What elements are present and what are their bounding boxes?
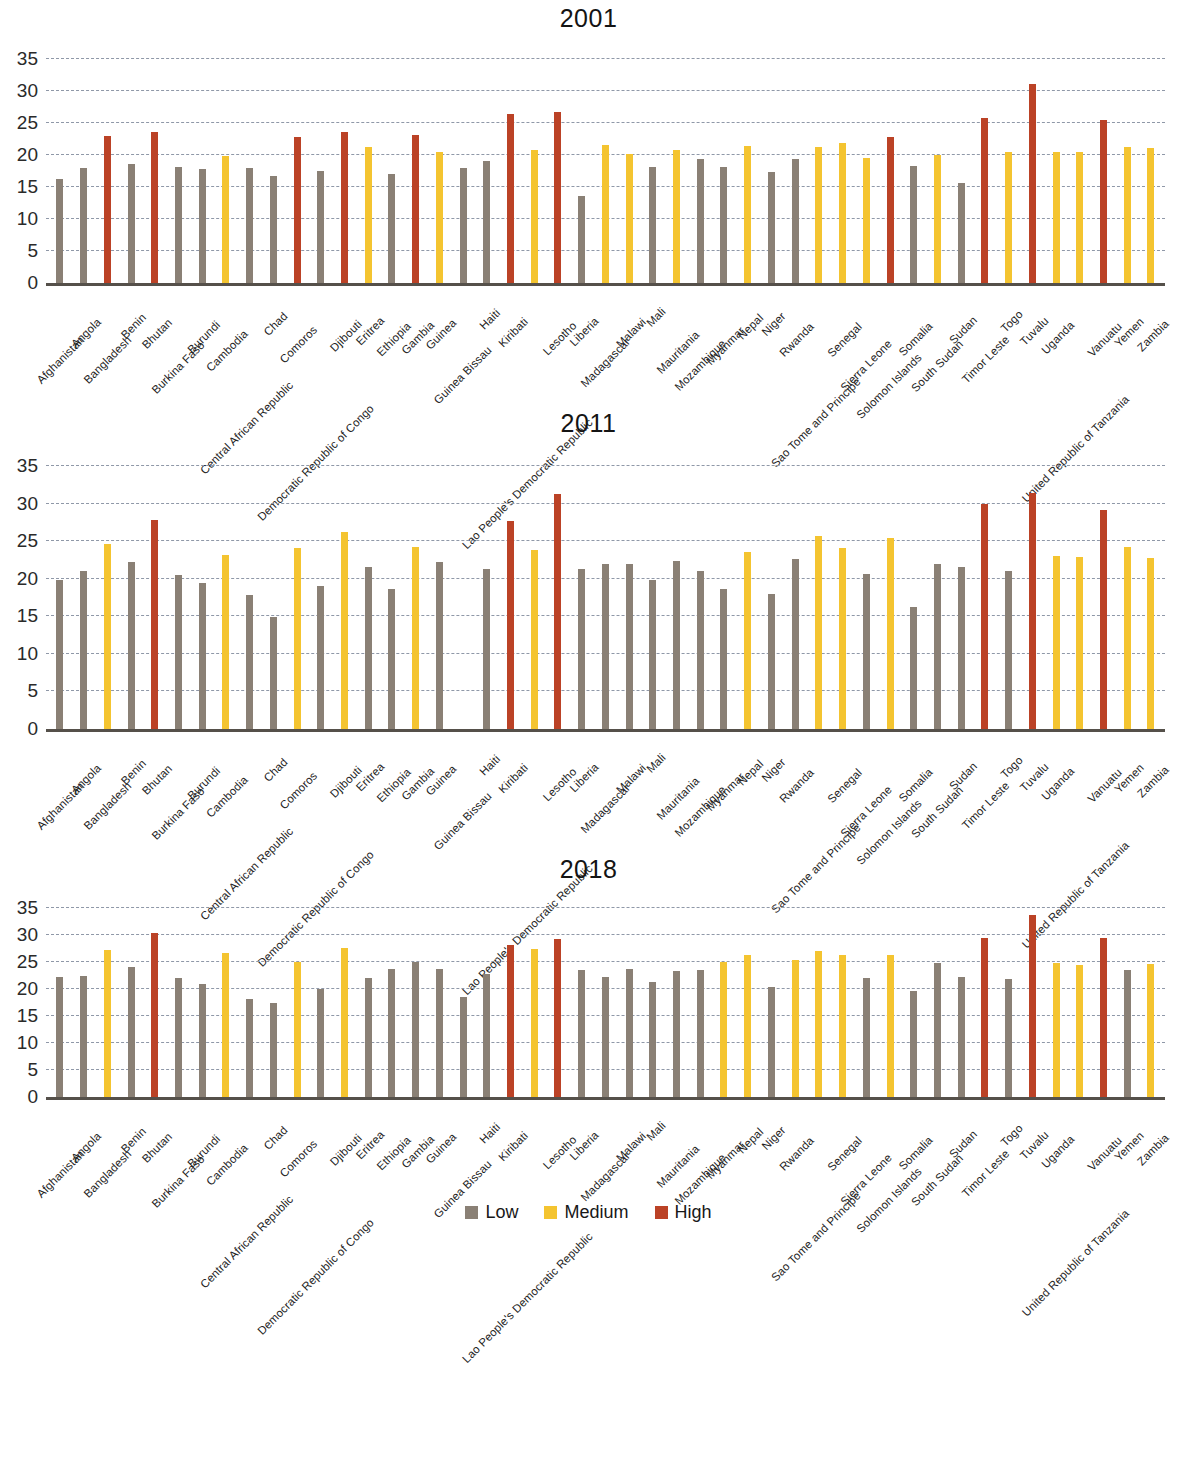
bar-slot (1068, 455, 1092, 729)
bar (887, 538, 894, 729)
bar-slot (499, 900, 523, 1097)
bar-slot (807, 455, 831, 729)
bar (151, 520, 158, 729)
bar-slot (831, 455, 855, 729)
bar (887, 955, 894, 1097)
x-axis-labels-2011: AfghanistanAngolaBangladeshBeninBhutanBu… (46, 732, 1165, 742)
bar (697, 159, 704, 283)
legend-swatch-high-icon (655, 1206, 668, 1219)
bar (910, 991, 917, 1097)
bar-slot (807, 49, 831, 283)
bar (863, 158, 870, 283)
x-axis-tick-label: Democratic Republic of Congo (255, 1216, 376, 1337)
bar-slot (285, 455, 309, 729)
x-label-slot: Uganda (1044, 1100, 1068, 1110)
bar (578, 569, 585, 729)
bar (863, 978, 870, 1097)
x-label-slot: Bhutan (143, 1100, 167, 1110)
bar (246, 168, 253, 283)
x-label-slot: Somalia (902, 732, 926, 742)
x-axis-tick-label: Angola (68, 316, 102, 350)
bar (341, 532, 348, 729)
x-label-slot: Burkina Faso (167, 1100, 191, 1110)
bar (294, 962, 301, 1097)
x-label-slot: Sierra Leone (854, 1100, 878, 1110)
x-label-slot: Yemen (1115, 732, 1139, 742)
bar (531, 949, 538, 1097)
bar-slot (380, 455, 404, 729)
bar-slot (878, 455, 902, 729)
x-label-slot: Niger (760, 732, 784, 742)
bar-slot (119, 49, 143, 283)
x-label-slot: Chad (261, 732, 285, 742)
x-axis-labels-2018: AfghanistanAngolaBangladeshBeninBhutanBu… (46, 1100, 1165, 1110)
x-axis-tick-label: Comoros (277, 769, 319, 811)
x-label-slot: Solomon Islands (878, 286, 902, 296)
bar-slot (475, 900, 499, 1097)
x-label-slot: Tuvalu (1020, 286, 1044, 296)
bar-slot (997, 455, 1021, 729)
x-axis-tick-label: Bangladesh (82, 780, 134, 832)
bar-slot (926, 900, 950, 1097)
y-tick-label: 30 (17, 924, 38, 946)
x-axis-tick-label: Chad (262, 756, 290, 784)
bar-slot (143, 49, 167, 283)
x-label-slot: Haiti (475, 732, 499, 742)
bar-slot (1115, 455, 1139, 729)
bar (578, 970, 585, 1097)
bar (1053, 152, 1060, 283)
bar-slot (736, 455, 760, 729)
legend-label-medium: Medium (564, 1202, 628, 1223)
chart-legend: Low Medium High (0, 1202, 1177, 1223)
bar (199, 169, 206, 283)
bar (626, 564, 633, 729)
x-axis-tick-label: Rwanda (777, 320, 816, 359)
bar (981, 504, 988, 729)
bar (910, 166, 917, 283)
x-label-slot: Mozambique (688, 732, 712, 742)
bar-slot (119, 900, 143, 1097)
bar (341, 132, 348, 283)
bar-slot (428, 900, 452, 1097)
x-label-slot: Sao Tome and Principe (807, 1100, 831, 1110)
x-label-slot: Sudan (949, 1100, 973, 1110)
x-label-slot: Sierra Leone (854, 286, 878, 296)
x-axis-labels-2001: AfghanistanAngolaBangladeshBeninBhutanBu… (46, 286, 1165, 296)
x-label-slot: Guinea (428, 286, 452, 296)
x-axis-tick-label: Haiti (477, 1121, 502, 1146)
x-label-slot: Zambia (1139, 732, 1163, 742)
x-label-slot: Eritrea (356, 1100, 380, 1110)
y-tick-label: 15 (17, 605, 38, 627)
bar (199, 583, 206, 729)
legend-swatch-low-icon (465, 1206, 478, 1219)
x-axis-tick-label: Togo (998, 754, 1024, 780)
bar (270, 1003, 277, 1097)
bar (1124, 970, 1131, 1097)
x-label-slot: Gambia (404, 286, 428, 296)
bar-slot (902, 49, 926, 283)
bar-slot (261, 455, 285, 729)
bar-slot (926, 455, 950, 729)
bar-slot (617, 49, 641, 283)
x-label-slot: Burkina Faso (167, 286, 191, 296)
y-tick-label: 0 (27, 718, 38, 740)
x-label-slot: Sao Tome and Principe (807, 732, 831, 742)
x-label-slot: Niger (760, 286, 784, 296)
x-label-slot: Uganda (1044, 286, 1068, 296)
x-label-slot: Togo (997, 732, 1021, 742)
bar (56, 977, 63, 1097)
x-label-slot: Lao People's Democratic Republic (522, 286, 546, 296)
bar-slot (1020, 900, 1044, 1097)
bar-slot (1044, 49, 1068, 283)
x-label-slot: Rwanda (783, 732, 807, 742)
bar (56, 179, 63, 283)
bar-slot (143, 900, 167, 1097)
bar-slot (499, 49, 523, 283)
bar-slot (72, 455, 96, 729)
y-tick-label: 20 (17, 568, 38, 590)
x-axis-tick-label: Bangladesh (82, 334, 134, 386)
bar (1147, 964, 1154, 1097)
x-label-slot: Guinea (428, 732, 452, 742)
bar-slot (380, 49, 404, 283)
x-label-slot: Bangladesh (95, 286, 119, 296)
